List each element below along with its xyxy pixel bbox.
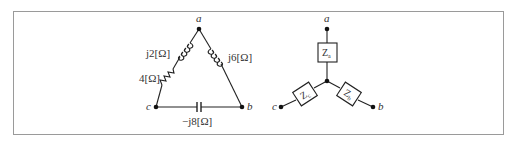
- resistor-4-icon: [160, 69, 174, 85]
- label-j6: j6[Ω]: [227, 51, 252, 63]
- circuit-diagram: a c b j2[Ω] 4[Ω] j6[Ω] −j8[Ω] a c b Za Z…: [0, 0, 514, 142]
- wire: [358, 100, 373, 107]
- wire: [221, 64, 242, 107]
- inductor-j2-icon: [179, 43, 193, 60]
- delta-node-b-label: b: [247, 100, 253, 112]
- wye-node-b-label: b: [378, 100, 384, 112]
- delta-network: [156, 29, 242, 112]
- wire: [173, 57, 180, 69]
- delta-node-a-dot: [197, 27, 202, 32]
- wire: [190, 29, 199, 43]
- delta-node-c-dot: [154, 105, 159, 110]
- wire: [281, 100, 296, 107]
- wye-center-node-dot: [325, 79, 330, 84]
- wye-node-b-dot: [371, 105, 376, 110]
- label-4ohm: 4[Ω]: [139, 72, 160, 84]
- wire: [156, 85, 162, 107]
- wye-network: [281, 29, 373, 107]
- delta-node-a-label: a: [196, 12, 202, 24]
- delta-node-c-label: c: [146, 100, 151, 112]
- wire: [199, 29, 211, 49]
- label-j2: j2[Ω]: [145, 47, 170, 59]
- wye-node-c-label: c: [272, 100, 277, 112]
- wye-node-c-dot: [279, 105, 284, 110]
- inductor-j6-icon: [208, 49, 222, 66]
- delta-node-b-dot: [240, 105, 245, 110]
- wye-node-a-label: a: [324, 12, 330, 24]
- label-minus-j8: −j8[Ω]: [182, 115, 212, 127]
- wye-node-a-dot: [325, 27, 330, 32]
